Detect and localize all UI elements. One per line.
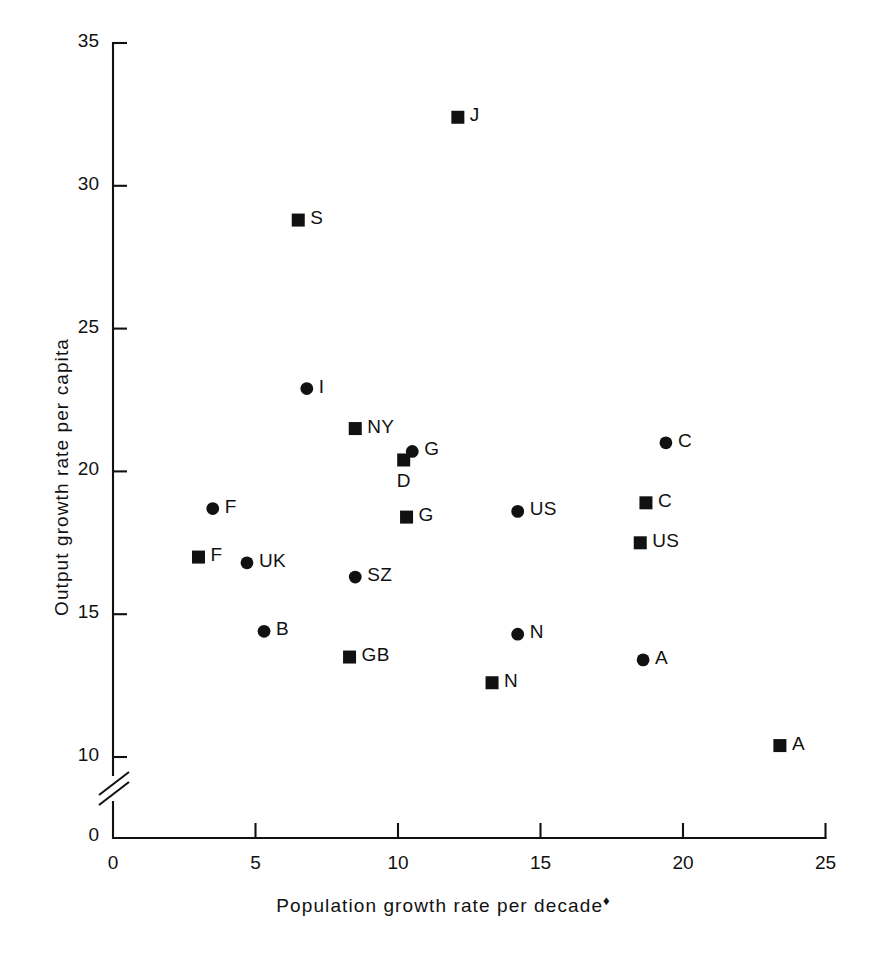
data-point-label: J: [470, 104, 480, 126]
x-tick-label: 10: [378, 852, 418, 874]
axes-group: [113, 43, 826, 838]
scatter-plot-figure: 1015202530350 0510152025 JSINYCGDCFUSGUS…: [0, 0, 886, 953]
data-point-label: US: [530, 498, 557, 520]
data-marker-square: [451, 111, 464, 124]
y-tick-label: 10: [53, 744, 99, 766]
data-point-label: C: [678, 430, 692, 452]
data-point-label: SZ: [367, 564, 392, 586]
data-point-label: G: [419, 504, 434, 526]
data-point-label: UK: [259, 550, 286, 572]
data-marker-circle: [660, 436, 673, 449]
x-tick-label: 15: [521, 852, 561, 874]
x-axis-footnote-marker: ♦: [603, 893, 610, 908]
data-point-label: NY: [367, 416, 394, 438]
plot-canvas: [0, 0, 886, 953]
data-marker-square: [343, 651, 356, 664]
data-marker-circle: [511, 505, 524, 518]
y-origin-label: 0: [53, 824, 99, 846]
data-point-label: F: [211, 544, 223, 566]
data-marker-circle: [349, 571, 362, 584]
data-point-label: US: [652, 530, 679, 552]
data-marker-square: [639, 496, 652, 509]
y-tick-label: 30: [53, 173, 99, 195]
data-marker-circle: [511, 628, 524, 641]
x-tick-label: 20: [663, 852, 703, 874]
data-marker-circle: [206, 502, 219, 515]
x-axis-title-text: Population growth rate per decade: [276, 895, 603, 916]
data-marker-circle: [241, 556, 254, 569]
data-marker-square: [634, 536, 647, 549]
x-axis-title: Population growth rate per decade♦: [0, 893, 886, 917]
data-markers-group: [192, 111, 786, 752]
data-marker-square: [773, 739, 786, 752]
data-marker-square: [397, 453, 410, 466]
tick-marks-group: [113, 186, 826, 838]
x-tick-label: 0: [93, 852, 133, 874]
data-point-label: G: [424, 438, 439, 460]
data-marker-square: [292, 214, 305, 227]
data-marker-circle: [637, 653, 650, 666]
data-marker-circle: [258, 625, 271, 638]
data-point-label: A: [655, 647, 668, 669]
data-point-label: N: [530, 621, 544, 643]
x-tick-label: 25: [806, 852, 846, 874]
data-point-label: D: [397, 470, 411, 492]
data-point-label: N: [504, 670, 518, 692]
data-point-label: I: [319, 376, 325, 398]
x-tick-label: 5: [236, 852, 276, 874]
y-axis-title: Output growth rate per capita: [51, 237, 73, 717]
data-point-label: C: [658, 490, 672, 512]
data-marker-square: [349, 422, 362, 435]
data-point-label: A: [792, 733, 805, 755]
data-marker-square: [486, 676, 499, 689]
data-marker-square: [400, 511, 413, 524]
y-axis-break-icon: [99, 772, 129, 805]
data-point-label: B: [276, 618, 289, 640]
data-marker-square: [192, 551, 205, 564]
data-marker-circle: [300, 382, 313, 395]
data-point-label: GB: [362, 644, 390, 666]
data-point-label: S: [310, 207, 323, 229]
y-tick-label: 35: [53, 30, 99, 52]
data-point-label: F: [225, 496, 237, 518]
